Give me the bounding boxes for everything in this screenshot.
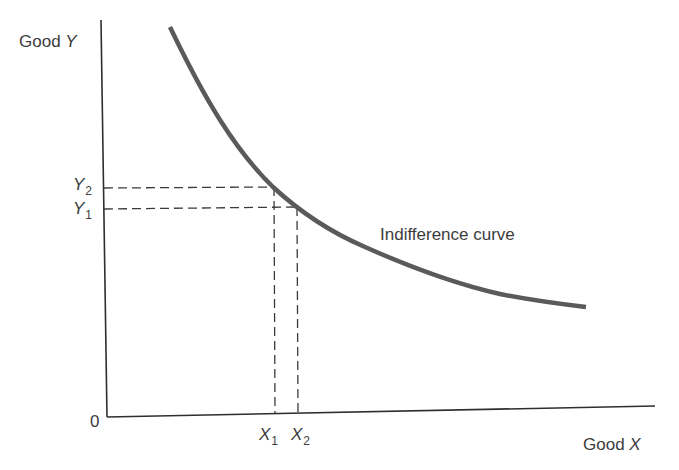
x2-tick-sub: 2 <box>303 434 310 448</box>
dashed-guides <box>104 187 298 413</box>
y-axis-label-word: Good <box>19 32 61 51</box>
x1-tick-label: X1 <box>259 426 278 443</box>
y2-guide-line <box>104 187 273 188</box>
y2-tick-label: Y2 <box>73 176 92 193</box>
y-axis-label-var: Y <box>65 32 76 51</box>
x2-tick-label: X2 <box>291 426 310 443</box>
y1-tick-label: Y1 <box>73 200 92 217</box>
y1-tick-sub: 1 <box>85 208 92 222</box>
x2-guide-line <box>297 207 298 413</box>
indifference-curve-diagram <box>0 0 679 470</box>
x-axis-label-var: X <box>629 435 640 454</box>
indifference-curve <box>170 27 586 307</box>
y-axis <box>101 20 107 417</box>
x-axis <box>107 406 655 417</box>
x2-tick-var: X <box>291 425 302 444</box>
x1-guide-line <box>274 187 275 413</box>
x-axis-label: Good X <box>583 436 641 453</box>
y1-guide-line <box>104 207 296 209</box>
y-axis-label: Good Y <box>19 33 77 50</box>
y2-tick-sub: 2 <box>85 184 92 198</box>
x1-tick-sub: 1 <box>271 434 278 448</box>
x-axis-label-word: Good <box>583 435 625 454</box>
origin-label: 0 <box>90 413 99 430</box>
y1-tick-var: Y <box>73 199 84 218</box>
y2-tick-var: Y <box>73 175 84 194</box>
x1-tick-var: X <box>259 425 270 444</box>
curve-label: Indifference curve <box>380 226 515 243</box>
